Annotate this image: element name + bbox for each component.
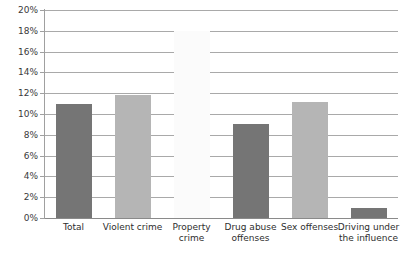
y-axis-tick-label: 4% [4,172,38,181]
x-axis-category-label: Driving under the influence [336,222,401,244]
bar [115,95,151,218]
y-axis-tick-label: 20% [4,6,38,15]
x-axis-category-label: Sex offenses [277,222,342,233]
y-axis-tick-label: 16% [4,47,38,56]
gridline [44,218,398,219]
y-axis-tick-label: 8% [4,130,38,139]
y-axis-tick-label: 14% [4,68,38,77]
y-axis-tick-label: 10% [4,110,38,119]
y-axis-tick-label: 6% [4,151,38,160]
y-axis-tick-label: 12% [4,89,38,98]
x-axis-category-label: Property crime [159,222,224,244]
bar [174,31,210,218]
y-axis-tick-label: 18% [4,26,38,35]
bar-group [44,10,398,218]
y-axis-tick-label: 0% [4,214,38,223]
x-axis-label-group: TotalViolent crimeProperty crimeDrug abu… [44,222,398,262]
y-axis-tick [40,218,44,219]
x-axis-category-label: Total [41,222,106,233]
bar [233,124,269,218]
bar-chart: 0%2%4%6%8%10%12%14%16%18%20% TotalViolen… [0,0,406,264]
y-axis-label-group: 0%2%4%6%8%10%12%14%16%18%20% [0,0,38,264]
x-axis-category-label: Drug abuse offenses [218,222,283,244]
bar [292,102,328,218]
bar [56,104,92,218]
x-axis-category-label: Violent crime [100,222,165,233]
bar [351,208,387,218]
y-axis-tick-label: 2% [4,193,38,202]
